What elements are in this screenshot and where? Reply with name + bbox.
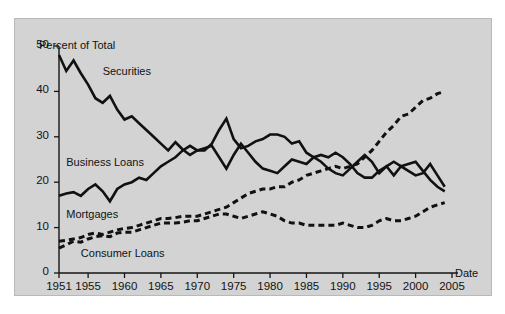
series-line-consumer-loans [59, 203, 445, 248]
chart-page: Percent of Total Date 01020304050 195119… [0, 0, 505, 314]
plot-area [15, 19, 493, 297]
series-paths [59, 55, 445, 248]
chart-panel: Percent of Total Date 01020304050 195119… [14, 18, 492, 296]
page-top-margin [0, 0, 505, 16]
series-line-business-loans [59, 119, 445, 202]
